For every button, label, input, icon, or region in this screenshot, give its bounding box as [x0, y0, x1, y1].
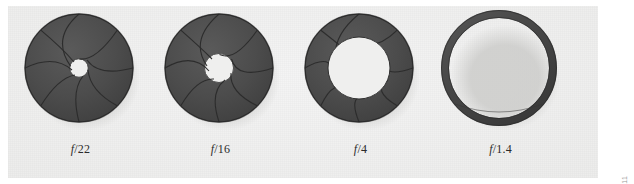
aperture-diaphragm-icon	[17, 8, 145, 136]
aperture-label-f1-4-value: /1.4	[493, 142, 512, 156]
aperture-cell-f16: f/16	[148, 0, 293, 172]
aperture-diaphragm-icon	[437, 8, 565, 136]
copyright-notice: © Cengage Learning 2011	[610, 0, 632, 184]
aperture-label-f22-value: /22	[74, 142, 90, 156]
aperture-stage	[157, 8, 285, 136]
aperture-label-f16: f/16	[148, 142, 293, 157]
aperture-cell-f1-4: f/1.4	[428, 0, 573, 172]
aperture-stage	[297, 8, 425, 136]
aperture-cell-f22: f/22	[8, 0, 153, 172]
aperture-label-f4: f/4	[288, 142, 433, 157]
aperture-stage	[437, 8, 565, 136]
aperture-figure: f/22	[0, 0, 634, 184]
copyright-text: © Cengage Learning 2011	[621, 176, 628, 184]
aperture-label-f22: f/22	[8, 142, 153, 157]
aperture-label-f1-4: f/1.4	[428, 142, 573, 157]
aperture-label-f16-value: /16	[214, 142, 230, 156]
aperture-stage	[17, 8, 145, 136]
aperture-cell-f4: f/4	[288, 0, 433, 172]
aperture-label-f4-value: /4	[357, 142, 367, 156]
aperture-diaphragm-icon	[297, 8, 425, 136]
aperture-diaphragm-icon	[157, 8, 285, 136]
